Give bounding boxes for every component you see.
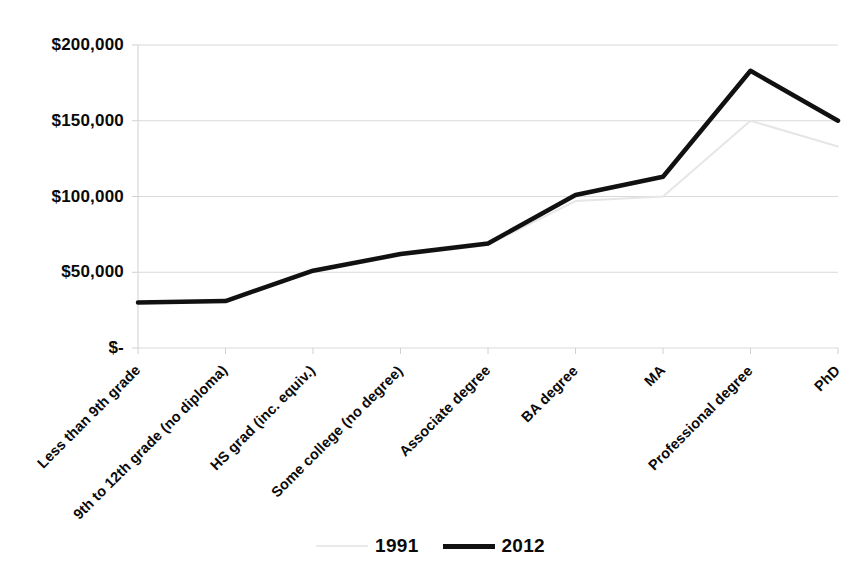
legend-label-2012: 2012 <box>502 535 545 557</box>
series-lines-group <box>138 71 838 303</box>
y-axis-tick-label: $- <box>108 338 124 358</box>
y-axis-tick-label: $50,000 <box>61 262 124 282</box>
legend-line-icon-1991 <box>316 545 368 547</box>
series-line-2012 <box>138 71 838 303</box>
chart-legend: 1991 2012 <box>0 528 861 564</box>
legend-item-2012[interactable]: 2012 <box>443 535 545 557</box>
legend-item-1991[interactable]: 1991 <box>316 535 418 557</box>
y-axis-tick-label: $150,000 <box>51 111 124 131</box>
chart-container: $200,000$150,000$100,000$50,000$- Less t… <box>0 0 861 580</box>
chart-plot-svg <box>0 0 861 580</box>
y-axis-tick-label: $100,000 <box>51 187 124 207</box>
series-line-1991 <box>138 121 838 303</box>
legend-line-icon-2012 <box>443 544 495 549</box>
legend-label-1991: 1991 <box>375 535 418 557</box>
y-axis-tick-label: $200,000 <box>51 35 124 55</box>
